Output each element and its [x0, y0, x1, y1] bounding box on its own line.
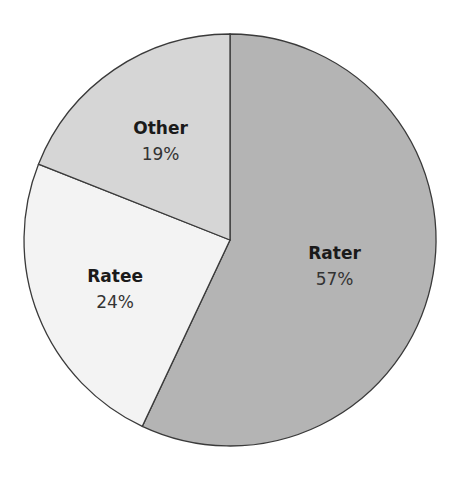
slice-label-ratee: Ratee	[87, 266, 143, 286]
slice-label-rater: Rater	[308, 243, 361, 263]
pie-chart: Rater57%Ratee24%Other19%	[0, 0, 455, 480]
slice-value-ratee: 24%	[96, 292, 134, 312]
slice-value-rater: 57%	[316, 269, 354, 289]
slice-label-other: Other	[133, 118, 188, 138]
slice-value-other: 19%	[142, 144, 180, 164]
